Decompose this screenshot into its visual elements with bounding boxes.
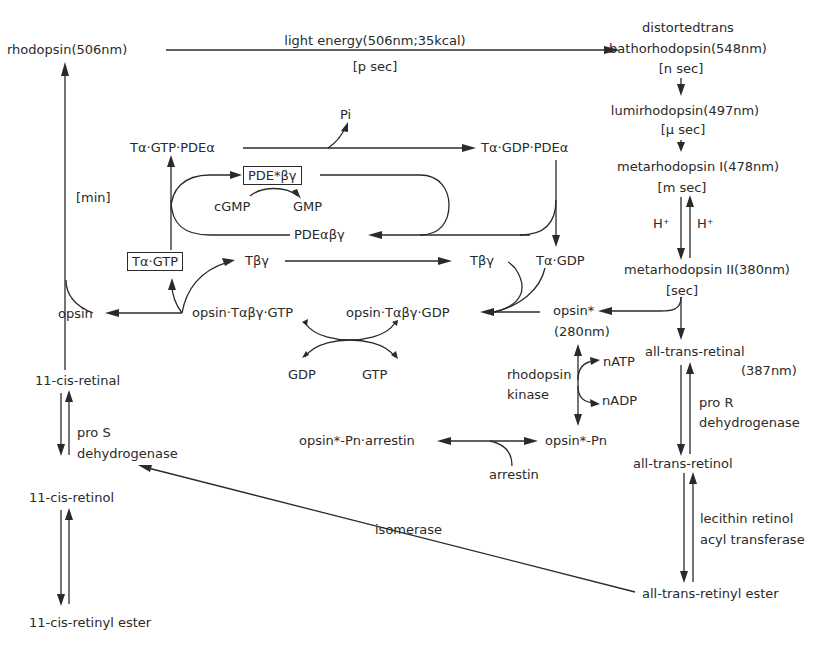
nadp-label: nADP xyxy=(602,393,637,409)
diagram-arrows xyxy=(0,0,828,646)
gtp-label: GTP xyxy=(362,367,387,383)
all-trans-retinol-label: all-trans-retinol xyxy=(633,456,733,472)
distortedtrans-label: distortedtrans xyxy=(642,20,734,36)
all-trans-retinal-label: all-trans-retinal xyxy=(645,344,745,360)
cis-retinal-label: 11-cis-retinal xyxy=(35,373,120,389)
opsin-label: opsin xyxy=(58,306,93,322)
p-sec-label: [p sec] xyxy=(353,59,397,75)
metarhodopsin-1-label: metarhodopsin I(478nm) xyxy=(617,159,779,175)
lecithin-label-1: lecithin retinol xyxy=(700,511,793,527)
lumirhodopsin-label: lumirhodopsin(497nm) xyxy=(611,103,759,119)
natp-label: nATP xyxy=(603,354,635,370)
bathorhodopsin-label: bathorhodopsin(548nm) xyxy=(609,41,767,57)
all-trans-retinyl-ester-label: all-trans-retinyl ester xyxy=(642,586,779,602)
lecithin-label-2: acyl transferase xyxy=(700,532,805,548)
t-beta-gamma-left-label: Tβγ xyxy=(245,253,269,269)
metarhodopsin-2-label: metarhodopsin II(380nm) xyxy=(624,262,790,278)
cis-retinol-label: 11-cis-retinol xyxy=(29,490,114,506)
opsin-star-label: opsin* xyxy=(553,303,594,319)
pde-star-beta-gamma-box: PDE*βγ xyxy=(243,166,302,185)
t-alpha-gtp-box: Tα·GTP xyxy=(127,252,183,271)
gdp-label: GDP xyxy=(288,367,316,383)
light-energy-label: light energy(506nm;35kcal) xyxy=(284,33,465,49)
rhodopsin-label: rhodopsin(506nm) xyxy=(7,42,127,58)
rhodopsin-kinase-label-2: kinase xyxy=(507,387,549,403)
t-alpha-gdp-pde-alpha-label: Tα·GDP·PDEα xyxy=(481,140,568,156)
mu-sec-label: [μ sec] xyxy=(661,122,705,138)
dehydrogenase-s-label: dehydrogenase xyxy=(77,446,178,462)
gmp-label: GMP xyxy=(293,199,322,215)
pde-alpha-beta-gamma-label: PDEαβγ xyxy=(294,227,345,243)
opsin-pn-label: opsin*-Pn xyxy=(545,433,607,449)
sec-label: [sec] xyxy=(666,283,698,299)
rhodopsin-kinase-label-1: rhodopsin xyxy=(507,367,571,383)
isomerase-label: isomerase xyxy=(375,522,442,538)
opsin-pn-arrestin-label: opsin*-Pn·arrestin xyxy=(299,433,415,449)
pro-s-label: pro S xyxy=(77,425,111,441)
dehydrogenase-r-label: dehydrogenase xyxy=(699,415,800,431)
cis-retinyl-ester-label: 11-cis-retinyl ester xyxy=(29,615,151,631)
all-trans-retinal-nm-label: (387nm) xyxy=(741,363,797,379)
arrestin-label: arrestin xyxy=(489,467,539,483)
min-label: [min] xyxy=(76,190,111,206)
cgmp-label: cGMP xyxy=(214,199,250,215)
pi-label: Pi xyxy=(340,107,351,123)
n-sec-label: [n sec] xyxy=(659,61,703,77)
t-alpha-gdp-label: Tα·GDP xyxy=(536,253,585,269)
visual-cycle-diagram: rhodopsin(506nm) light energy(506nm;35kc… xyxy=(0,0,828,646)
h-plus-right-label: H⁺ xyxy=(697,216,714,232)
m-sec-label: [m sec] xyxy=(658,180,707,196)
opsin-t-gdp-label: opsin·Tαβγ·GDP xyxy=(346,305,450,321)
t-alpha-gtp-pde-alpha-label: Tα·GTP·PDEα xyxy=(130,140,215,156)
pro-r-label: pro R xyxy=(699,395,733,411)
opsin-star-nm-label: (280nm) xyxy=(554,324,610,340)
t-beta-gamma-right-label: Tβγ xyxy=(470,253,494,269)
opsin-t-gtp-label: opsin·Tαβγ·GTP xyxy=(192,305,293,321)
h-plus-left-label: H⁺ xyxy=(653,216,670,232)
